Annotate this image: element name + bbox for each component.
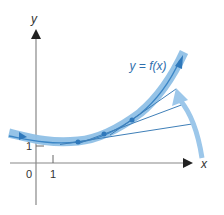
tangent-point: [102, 132, 107, 137]
tangent-lines: [60, 89, 192, 145]
x-axis: [10, 158, 193, 168]
x-axis-arrow-icon: [183, 158, 193, 168]
y-axis: [31, 29, 41, 205]
origin-label: 0: [26, 168, 32, 180]
x-axis-label: x: [200, 157, 208, 171]
tangent-lines-diagram: y x 0 1 1 y = f(x): [0, 0, 224, 215]
y-axis-arrow-icon: [31, 29, 41, 39]
rotation-arrow: [172, 88, 202, 158]
y-axis-label: y: [30, 12, 38, 26]
x-tick-label: 1: [50, 168, 56, 180]
tangent-point: [130, 118, 135, 123]
tangent-line-2: [80, 104, 184, 143]
tangent-point: [76, 140, 81, 145]
curve-label: y = f(x): [128, 59, 166, 73]
